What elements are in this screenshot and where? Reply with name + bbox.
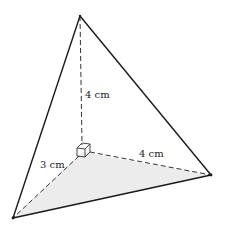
right-vertex	[210, 174, 213, 177]
height-edge-dashed	[80, 16, 82, 145]
height-label: 4 cm	[85, 89, 110, 100]
pyramid-diagram: 4 cm 3 cm 4 cm	[0, 0, 225, 234]
bottom-left-vertex	[12, 217, 15, 220]
left-leg-label: 3 cm	[40, 159, 65, 170]
apex-vertex	[79, 15, 81, 17]
right-leg-label: 4 cm	[139, 148, 164, 159]
